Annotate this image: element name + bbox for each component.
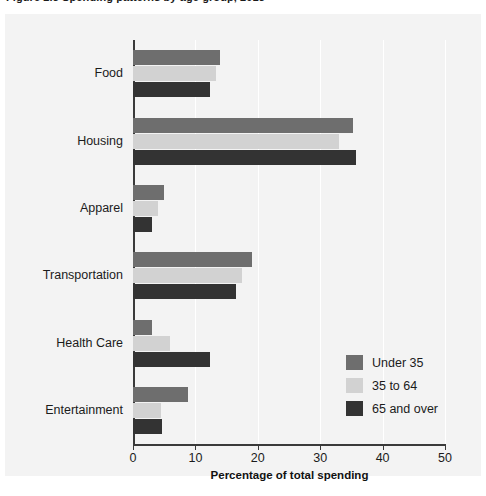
bar-apparel-65-and-over[interactable]	[133, 217, 152, 232]
bar-row	[133, 150, 445, 165]
bar-row	[133, 82, 445, 97]
bar-housing-35-to-64[interactable]	[133, 134, 339, 149]
bar-group-transportation: Transportation	[133, 252, 445, 300]
legend-swatch-icon	[346, 355, 363, 370]
tickmark-30	[320, 446, 321, 450]
tickmark-50	[445, 446, 446, 450]
bar-row	[133, 66, 445, 81]
gridline-20	[258, 40, 259, 444]
bar-housing-65-and-over[interactable]	[133, 150, 356, 165]
bar-entertainment-35-to-64[interactable]	[133, 403, 161, 418]
bar-health-care-65-and-over[interactable]	[133, 352, 210, 367]
bar-food-35-to-64[interactable]	[133, 66, 216, 81]
legend-swatch-icon	[346, 378, 363, 393]
bar-entertainment-under-35[interactable]	[133, 387, 188, 402]
bar-transportation-35-to-64[interactable]	[133, 268, 242, 283]
bar-row	[133, 268, 445, 283]
bar-apparel-under-35[interactable]	[133, 185, 164, 200]
figure-caption: Figure 2.3 Spending patterns by age grou…	[6, 0, 265, 3]
tickmark-40	[383, 446, 384, 450]
bar-group-apparel: Apparel	[133, 185, 445, 233]
chart-plot-frame: FoodHousingApparelTransportationHealth C…	[5, 14, 481, 476]
x-tick-label-20: 20	[251, 451, 265, 465]
legend-label: 35 to 64	[372, 379, 417, 393]
bar-group-food: Food	[133, 50, 445, 98]
legend-swatch-icon	[346, 401, 363, 416]
bar-row	[133, 201, 445, 216]
bar-row	[133, 185, 445, 200]
legend-label: Under 35	[372, 356, 423, 370]
category-label-entertainment: Entertainment	[0, 403, 123, 417]
bar-apparel-35-to-64[interactable]	[133, 201, 158, 216]
bar-food-65-and-over[interactable]	[133, 82, 210, 97]
bar-row	[133, 217, 445, 232]
category-label-apparel: Apparel	[0, 201, 123, 215]
tickmark-0	[133, 446, 134, 450]
bar-row	[133, 419, 445, 434]
x-tick-label-30: 30	[313, 451, 327, 465]
bar-row	[133, 134, 445, 149]
bar-entertainment-65-and-over[interactable]	[133, 419, 162, 434]
bar-row	[133, 50, 445, 65]
bar-food-under-35[interactable]	[133, 50, 220, 65]
bar-health-care-35-to-64[interactable]	[133, 336, 170, 351]
x-tick-label-40: 40	[376, 451, 390, 465]
x-tick-label-50: 50	[438, 451, 452, 465]
bar-row	[133, 336, 445, 351]
bar-transportation-65-and-over[interactable]	[133, 284, 236, 299]
gridline-50	[445, 40, 446, 444]
tickmark-10	[195, 446, 196, 450]
bar-group-housing: Housing	[133, 118, 445, 166]
bar-row	[133, 118, 445, 133]
category-label-transportation: Transportation	[0, 268, 123, 282]
category-label-health-care: Health Care	[0, 336, 123, 350]
x-axis-title: Percentage of total spending	[133, 469, 446, 481]
x-tick-label-0: 0	[130, 451, 137, 465]
x-tick-label-10: 10	[188, 451, 202, 465]
legend-item-65-and-over[interactable]: 65 and over	[346, 397, 438, 420]
chart-legend: Under 3535 to 6465 and over	[346, 351, 438, 420]
gridline-10	[195, 40, 196, 444]
bar-row	[133, 320, 445, 335]
tickmark-20	[258, 446, 259, 450]
category-label-food: Food	[0, 66, 123, 80]
legend-item-under-35[interactable]: Under 35	[346, 351, 438, 374]
category-label-housing: Housing	[0, 134, 123, 148]
bar-row	[133, 284, 445, 299]
bar-transportation-under-35[interactable]	[133, 252, 252, 267]
bar-housing-under-35[interactable]	[133, 118, 353, 133]
bar-health-care-under-35[interactable]	[133, 320, 152, 335]
legend-label: 65 and over	[372, 402, 438, 416]
x-axis-line	[133, 444, 446, 446]
legend-item-35-to-64[interactable]: 35 to 64	[346, 374, 438, 397]
bar-row	[133, 252, 445, 267]
gridline-30	[320, 40, 321, 444]
